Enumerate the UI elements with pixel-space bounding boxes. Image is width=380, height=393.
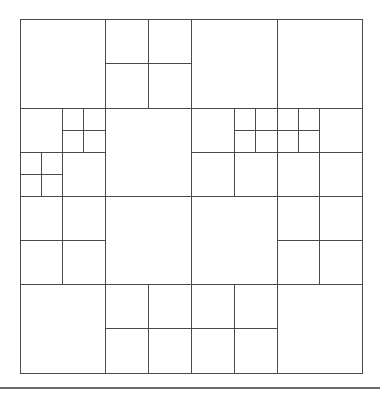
grid-cell [192,153,235,197]
grid-cell [21,109,63,153]
grid-cell [63,153,106,197]
grid-cell [278,197,320,241]
grid-cell [192,329,235,374]
grid-cell [320,153,363,197]
grid-cell [149,285,192,329]
grid-cell [235,109,256,131]
grid-cell [63,109,84,131]
quadtree-cells [21,20,363,374]
grid-cell [278,153,320,197]
grid-cell [21,153,42,175]
grid-cell [320,109,363,153]
grid-cell [278,241,320,285]
grid-cell [278,20,363,109]
grid-cell [21,285,106,374]
grid-cell [42,175,63,197]
grid-cell [21,175,42,197]
grid-cell [278,285,363,374]
grid-cell [63,131,84,153]
grid-cell [192,285,235,329]
grid-cell [84,131,106,153]
grid-cell [106,285,149,329]
grid-cell [235,285,278,329]
grid-cell [63,197,106,241]
grid-cell [106,20,149,64]
grid-cell [42,153,63,175]
grid-cell [299,109,320,131]
grid-cell [149,64,192,109]
grid-cell [106,64,149,109]
grid-cell [278,109,299,131]
grid-cell [320,241,363,285]
grid-cell [21,20,106,109]
grid-cell [235,153,278,197]
grid-cell [235,131,256,153]
grid-cell [21,197,63,241]
grid-cell [256,131,278,153]
grid-cell [149,20,192,64]
grid-cell [106,197,192,285]
grid-cell [21,241,63,285]
grid-cell [299,131,320,153]
grid-cell [149,329,192,374]
grid-cell [106,109,192,197]
grid-cell [192,197,278,285]
grid-cell [106,329,149,374]
quadtree-diagram [0,0,380,393]
grid-cell [278,131,299,153]
grid-cell [192,109,235,153]
grid-cell [192,20,278,109]
grid-cell [63,241,106,285]
grid-cell [256,109,278,131]
grid-cell [84,109,106,131]
grid-cell [320,197,363,241]
grid-cell [235,329,278,374]
